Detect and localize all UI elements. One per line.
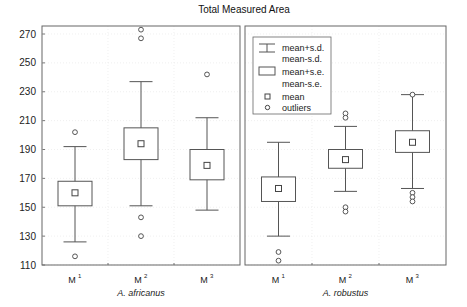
- y-axis: 110130150170190210230250270: [19, 29, 45, 271]
- x-category-superscript: 3: [210, 273, 214, 279]
- x-category-superscript: 1: [282, 273, 286, 279]
- outlier-point: [73, 130, 78, 135]
- y-tick-label: 250: [19, 57, 36, 68]
- outlier-point: [139, 215, 144, 220]
- legend-mean-icon: [265, 94, 270, 99]
- legend-outlier-icon: [265, 105, 269, 109]
- legend-label: mean: [282, 92, 305, 102]
- y-tick-label: 130: [19, 231, 36, 242]
- x-category-label: M: [272, 275, 280, 285]
- y-tick-label: 150: [19, 202, 36, 213]
- outlier-point: [139, 36, 144, 41]
- group-label: A. robustus: [322, 288, 369, 298]
- x-category-superscript: 1: [78, 273, 82, 279]
- panel-a-africanus: M1M2M3A. africanus: [42, 26, 240, 298]
- outlier-point: [276, 250, 281, 255]
- mean-marker: [276, 185, 282, 191]
- legend-label: mean+s.d.: [282, 43, 324, 53]
- x-category-label: M: [68, 275, 76, 285]
- outlier-point: [410, 199, 415, 204]
- x-category-label: M: [406, 275, 414, 285]
- x-category-label: M: [339, 275, 347, 285]
- x-category-label: M: [134, 275, 142, 285]
- outlier-point: [410, 92, 415, 97]
- y-tick-label: 110: [20, 260, 36, 271]
- outlier-point: [343, 209, 348, 214]
- legend-label: mean-s.e.: [282, 79, 322, 89]
- y-tick-label: 230: [19, 86, 36, 97]
- legend-label: mean+s.e.: [282, 67, 324, 77]
- outlier-point: [139, 234, 144, 239]
- group-label: A. africanus: [116, 288, 165, 298]
- legend-box-icon: [259, 67, 275, 75]
- legend-label: outliers: [282, 103, 312, 113]
- outlier-point: [139, 27, 144, 32]
- outlier-point: [276, 258, 281, 263]
- outlier-point: [343, 115, 348, 120]
- outlier-point: [205, 72, 210, 77]
- mean-marker: [204, 162, 210, 168]
- legend: mean+s.d.mean-s.d.mean+s.e.mean-s.e.mean…: [253, 37, 331, 114]
- y-tick-label: 210: [19, 115, 36, 126]
- mean-marker: [343, 157, 349, 163]
- box-plot-chart: Total Measured Area 11013015017019021023…: [0, 0, 467, 307]
- x-category-superscript: 2: [144, 273, 148, 279]
- mean-marker: [72, 190, 78, 196]
- y-tick-label: 170: [19, 173, 36, 184]
- mean-marker: [410, 139, 416, 145]
- chart-title: Total Measured Area: [198, 4, 290, 15]
- legend-label: mean-s.d.: [282, 54, 322, 64]
- y-tick-label: 270: [19, 29, 36, 40]
- y-tick-label: 190: [19, 144, 36, 155]
- mean-marker: [138, 141, 144, 147]
- x-category-superscript: 3: [416, 273, 420, 279]
- x-category-superscript: 2: [349, 273, 353, 279]
- x-category-label: M: [200, 275, 208, 285]
- outlier-point: [73, 254, 78, 259]
